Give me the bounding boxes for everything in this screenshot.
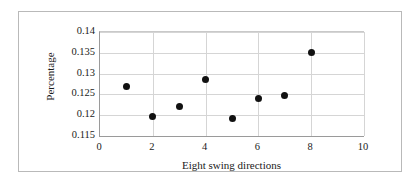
gridline-horizontal xyxy=(100,32,364,33)
x-axis-tick-labels: 0246810 xyxy=(99,141,364,155)
scatter-chart-figure: 0.1150.120.1250.130.1350.14 0246810 Eigh… xyxy=(0,0,420,187)
data-point xyxy=(255,95,262,102)
data-point xyxy=(202,76,209,83)
data-point xyxy=(229,115,236,122)
x-tick-label: 6 xyxy=(242,141,272,152)
x-tick-label: 0 xyxy=(84,141,114,152)
gridline-vertical xyxy=(258,32,259,136)
x-tick-label: 2 xyxy=(137,141,167,152)
gridline-vertical xyxy=(364,32,365,136)
x-tick-label: 4 xyxy=(190,141,220,152)
gridline-vertical xyxy=(206,32,207,136)
data-point xyxy=(281,92,288,99)
gridline-horizontal xyxy=(100,74,364,75)
data-point xyxy=(176,103,183,110)
data-point xyxy=(308,49,315,56)
gridline-horizontal xyxy=(100,53,364,54)
x-tick-label: 8 xyxy=(295,141,325,152)
y-tick-label: 0.115 xyxy=(39,130,95,140)
chart-frame: 0.1150.120.1250.130.1350.14 0246810 Eigh… xyxy=(18,11,402,172)
x-axis-label: Eight swing directions xyxy=(99,159,364,172)
plot-area xyxy=(99,31,364,137)
data-point xyxy=(123,83,130,90)
x-tick-label: 10 xyxy=(348,141,378,152)
gridline-horizontal xyxy=(100,94,364,95)
gridline-vertical xyxy=(153,32,154,136)
data-point xyxy=(149,113,156,120)
gridline-vertical xyxy=(311,32,312,136)
y-axis-label: Percentage xyxy=(44,22,57,132)
